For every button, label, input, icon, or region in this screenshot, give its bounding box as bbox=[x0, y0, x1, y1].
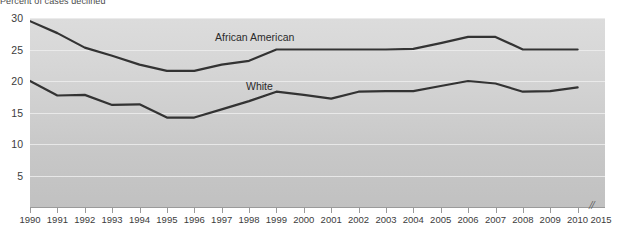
x-tick bbox=[85, 208, 86, 213]
x-tick bbox=[112, 208, 113, 213]
x-tick-label: 2015 bbox=[590, 214, 611, 225]
x-tick bbox=[386, 208, 387, 213]
x-tick bbox=[578, 208, 579, 213]
x-tick bbox=[523, 208, 524, 213]
x-axis: 1990199119921993199419951996199719981999… bbox=[0, 214, 642, 228]
x-tick bbox=[222, 208, 223, 213]
y-tick-label: 15 bbox=[11, 107, 23, 119]
x-tick-label: 1998 bbox=[238, 214, 259, 225]
x-tick bbox=[468, 208, 469, 213]
x-tick-label: 2002 bbox=[348, 214, 369, 225]
x-tick bbox=[194, 208, 195, 213]
series-label-african-american: African American bbox=[215, 31, 294, 43]
x-tick bbox=[359, 208, 360, 213]
x-tick-label: 2010 bbox=[567, 214, 588, 225]
x-tick bbox=[140, 208, 141, 213]
series-line-white bbox=[30, 81, 578, 118]
x-tick bbox=[167, 208, 168, 213]
x-tick bbox=[276, 208, 277, 213]
x-tick-label: 2006 bbox=[458, 214, 479, 225]
x-axis-ticks bbox=[30, 208, 605, 213]
line-chart: Percent of cases declined 51015202530 19… bbox=[0, 0, 642, 244]
series-line-african-american bbox=[30, 21, 578, 71]
x-tick bbox=[304, 208, 305, 213]
x-tick-label: 1997 bbox=[211, 214, 232, 225]
x-tick bbox=[550, 208, 551, 213]
x-tick-label: 1990 bbox=[19, 214, 40, 225]
x-tick-label: 1993 bbox=[102, 214, 123, 225]
x-tick-label: 2001 bbox=[321, 214, 342, 225]
x-tick bbox=[496, 208, 497, 213]
plot-area bbox=[30, 18, 605, 207]
x-tick-label: 1996 bbox=[184, 214, 205, 225]
series-lines bbox=[30, 18, 605, 207]
x-tick bbox=[413, 208, 414, 213]
x-tick bbox=[249, 208, 250, 213]
series-label-white: White bbox=[246, 80, 273, 92]
x-tick-label: 2005 bbox=[430, 214, 451, 225]
x-tick bbox=[441, 208, 442, 213]
y-tick-label: 20 bbox=[11, 75, 23, 87]
x-tick-label: 1995 bbox=[156, 214, 177, 225]
x-tick-label: 2009 bbox=[540, 214, 561, 225]
y-axis: 51015202530 bbox=[0, 18, 27, 207]
x-tick bbox=[57, 208, 58, 213]
axis-break-icon: // bbox=[589, 198, 594, 213]
x-tick-label: 2003 bbox=[375, 214, 396, 225]
x-tick bbox=[331, 208, 332, 213]
x-tick-label: 1992 bbox=[74, 214, 95, 225]
x-tick-label: 2008 bbox=[512, 214, 533, 225]
y-tick-label: 30 bbox=[11, 12, 23, 24]
y-tick-label: 25 bbox=[11, 44, 23, 56]
x-tick-label: 1999 bbox=[266, 214, 287, 225]
x-tick-label: 1994 bbox=[129, 214, 150, 225]
x-tick-label: 1991 bbox=[47, 214, 68, 225]
x-tick-label: 2007 bbox=[485, 214, 506, 225]
x-tick-label: 2004 bbox=[403, 214, 424, 225]
y-tick-label: 5 bbox=[17, 170, 23, 182]
x-tick-label: 2000 bbox=[293, 214, 314, 225]
x-tick bbox=[30, 208, 31, 213]
y-tick-label: 10 bbox=[11, 138, 23, 150]
chart-title: Percent of cases declined bbox=[0, 0, 106, 5]
